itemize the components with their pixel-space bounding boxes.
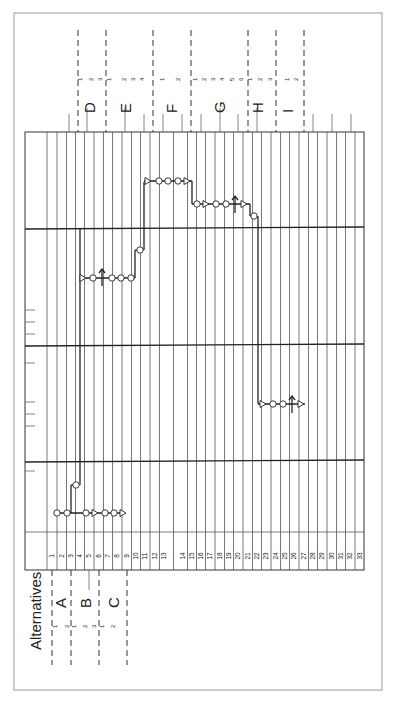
row-number: 1: [48, 554, 55, 558]
sub-g-4: 4: [219, 77, 225, 81]
row-number: 3: [67, 554, 74, 558]
sub-e-1: 1: [106, 77, 112, 81]
row-number: 4: [76, 554, 83, 558]
row-number: 7: [104, 554, 111, 558]
sub-c-1: 1: [99, 624, 105, 628]
sub-d-3: 3: [97, 77, 103, 81]
right-groups: D E F G H I 1 2 3 1 2 3 4 1 2 1 2 3 4 5 …: [69, 30, 351, 132]
row-number: 27: [300, 552, 307, 560]
row-number: 18: [216, 552, 223, 560]
row-number: 13: [160, 552, 167, 560]
sub-b-1: 1: [71, 624, 77, 628]
sub-c-2: 2: [110, 624, 116, 628]
row-number: 28: [309, 552, 316, 560]
row-number: 22: [253, 552, 260, 560]
left-groups: Alternatives A B C 1 2 1 2 3 1 2: [27, 570, 127, 665]
row-number: 15: [188, 552, 195, 560]
group-label-g: G: [211, 101, 228, 113]
row-number: 2: [58, 554, 65, 558]
row-number: 20: [234, 552, 241, 560]
alternatives-diagram: 1234567891011121314151617181920212223242…: [0, 0, 393, 704]
row-number: 33: [356, 552, 363, 560]
sub-f-2: 2: [175, 77, 181, 81]
group-label-f: F: [163, 104, 180, 113]
row-lines: [47, 132, 355, 570]
row-number: 31: [337, 552, 344, 560]
group-label-c: C: [105, 597, 122, 608]
row-number: 23: [262, 552, 269, 560]
row-number: 25: [281, 552, 288, 560]
row-number-labels: 1234567891011121314151617181920212223242…: [48, 552, 363, 560]
sub-e-4: 4: [139, 77, 145, 81]
sub-d-1: 1: [77, 77, 83, 81]
sub-b-3: 3: [91, 624, 97, 628]
group-label-b: B: [77, 598, 94, 608]
row-number: 30: [328, 552, 335, 560]
group-label-h: H: [249, 102, 266, 113]
group-label-a: A: [52, 598, 69, 608]
row-number: 9: [123, 554, 130, 558]
chain-de: [80, 182, 144, 286]
row-number: 29: [318, 552, 325, 560]
sub-h-2: 2: [257, 77, 263, 81]
sub-d-2: 2: [88, 77, 94, 81]
sub-i-2: 2: [293, 77, 299, 81]
sub-h-3: 3: [267, 77, 273, 81]
row-number: 5: [85, 554, 92, 558]
group-label-i: I: [279, 109, 296, 113]
sub-g-6: 6: [238, 77, 244, 81]
sub-a-1: 1: [52, 624, 58, 628]
chain-hi: [258, 396, 305, 413]
row-number: 17: [206, 552, 213, 560]
left-ticks: [25, 310, 35, 471]
row-number: 16: [197, 552, 204, 560]
row-number: 10: [132, 552, 139, 560]
sub-e-3: 3: [130, 77, 136, 81]
sub-i-1: 1: [284, 77, 290, 81]
sub-h-1: 1: [247, 77, 253, 81]
sub-a-2: 2: [64, 624, 70, 628]
row-number: 24: [272, 552, 279, 560]
chain-abc: [54, 229, 126, 517]
sub-b-2: 2: [82, 624, 88, 628]
group-label-e: E: [117, 103, 134, 113]
sub-g-5: 5: [229, 77, 235, 81]
row-number: 26: [290, 552, 297, 560]
row-number: 21: [244, 552, 251, 560]
sub-g-1: 1: [192, 77, 198, 81]
row-number: 14: [179, 552, 186, 560]
sub-g-3: 3: [210, 77, 216, 81]
sub-g-2: 2: [201, 77, 207, 81]
row-number: 12: [151, 552, 158, 560]
row-number: 6: [95, 554, 102, 558]
group-label-d: D: [81, 102, 98, 113]
row-number: 19: [225, 552, 232, 560]
chain-f: [144, 178, 192, 205]
sub-e-2: 2: [121, 77, 127, 81]
title-alternatives: Alternatives: [27, 572, 44, 650]
row-number: 32: [346, 552, 353, 560]
row-number: 8: [113, 554, 120, 558]
row-number: 11: [141, 552, 148, 559]
sub-f-1: 1: [159, 77, 165, 81]
